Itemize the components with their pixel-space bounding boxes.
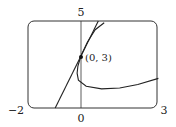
x-left-tick-label: −2 bbox=[8, 104, 24, 117]
point-label: (0, 3) bbox=[85, 52, 112, 63]
tangent-point-marker bbox=[79, 55, 83, 59]
x-right-tick-label: 3 bbox=[161, 104, 168, 117]
x-zero-tick-label: 0 bbox=[78, 112, 85, 125]
tangent-line bbox=[55, 21, 98, 108]
chart: (0, 3) 5 −2 0 3 bbox=[0, 0, 176, 127]
y-top-tick-label: 5 bbox=[78, 6, 85, 19]
